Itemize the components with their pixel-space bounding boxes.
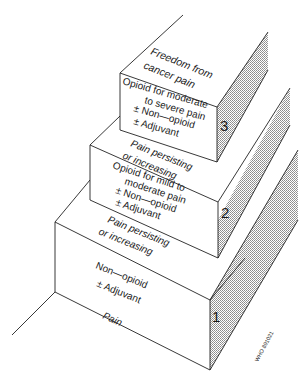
pain-ladder-diagram: Freedom from cancer pain Opioid for mode… — [0, 0, 303, 375]
credit-label: WHO 891021 — [254, 330, 275, 362]
step-2-number: 2 — [221, 204, 229, 221]
step-3-number: 3 — [220, 117, 228, 134]
step-1-number: 1 — [212, 308, 220, 325]
